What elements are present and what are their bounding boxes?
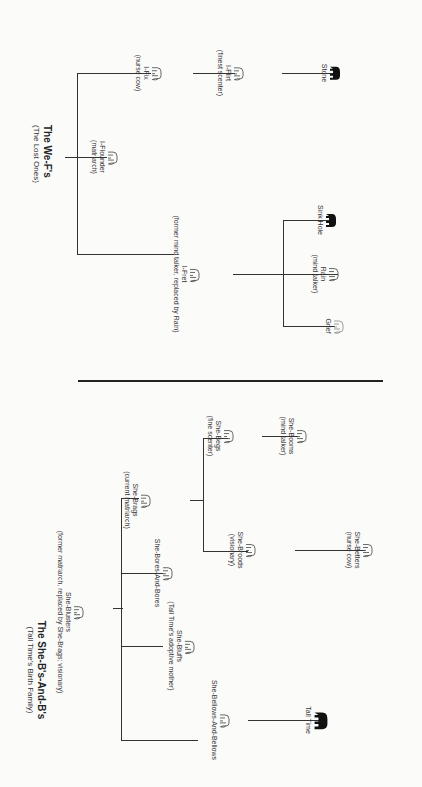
we-fs-trunk [77,73,78,254]
node-desc: (current matriarch) [123,471,131,529]
node-name: Grief [324,318,332,333]
node-name: Stone [320,64,328,82]
node-name: I-Fix [142,66,150,80]
elephant-outline-icon [106,149,120,165]
node-desc: (former matriarch, replaced by She-Brags… [56,531,64,694]
elephant-outline-icon [183,638,197,654]
node-desc: (mind talker) [311,255,319,294]
elephant-outline-icon [232,65,246,81]
node-desc: (nurse cow) [345,532,353,569]
node-name: She-Begs [214,421,222,452]
node-name: I-Flounder [98,141,106,173]
node-name: She-Brags [131,483,139,516]
elephant-outline-icon [72,604,86,620]
elephant-outline-icon [222,428,236,444]
elephant-outline-icon [188,266,202,282]
node-name: She-Bellows-And-Bellows [210,680,218,760]
node-name: I-Flirt [224,65,232,81]
node-name: Rain [319,267,327,281]
node-desc: (matriarch) [90,140,98,174]
she-bs-brags-stub [190,500,203,501]
we-fs-title: The We-F's [41,125,53,183]
we-fs-children-trunk [283,220,284,327]
node-name: I-Fret [180,266,188,283]
node-name: She-Blusters [64,592,72,632]
she-bs-branch-bellows [121,740,198,741]
node-desc: (mind talker) [279,417,287,456]
she-bs-title-block: The She-B's-And-B's (Tall Time's Birth F… [25,670,47,769]
elephant-solid-icon [324,212,338,228]
elephant-solid-icon [312,709,330,731]
node-name: She-Betters [353,532,361,569]
node-desc: (Tall Time's adoptive mother) [167,601,175,690]
node-name: She-Bluffs [175,630,183,662]
elephant-outline-icon [327,266,341,282]
node-desc: (visionary) [228,534,236,566]
node-name: She-Booms [287,418,295,455]
she-bs-brags-children-trunk [203,438,204,551]
elephant-outline-icon [218,712,232,728]
elephant-outline-icon [150,65,164,81]
elephant-outline-icon [332,318,346,334]
node-name: She-Broods [236,532,244,569]
elephant-outline-icon [295,428,309,444]
she-bs-trunk [121,498,122,740]
family-separator [78,380,383,382]
elephant-solid-icon [328,65,342,81]
node-desc: (nurse cow) [134,55,142,92]
node-desc: (finest scenter) [216,50,224,96]
elephant-outline-icon [139,492,153,508]
node-name: Sink Hole [316,205,324,235]
node-desc: (fine scenter) [206,416,214,457]
we-fs-subtitle: (The Lost Ones) [31,125,41,183]
elephant-outline-icon [361,542,375,558]
node-name: Tall Time [304,706,312,734]
elephant-outline-icon [161,565,175,581]
we-fs-branch-fret [77,254,174,255]
node-name: She-Bores-And-Bores [153,539,161,607]
she-bs-subtitle: (Tall Time's Birth Family) [25,621,35,720]
elephant-outline-icon [244,542,258,558]
we-fs-title-block: The We-F's (The Lost Ones) [31,125,53,183]
she-bs-title: The She-B's-And-B's [35,621,47,720]
she-bs-branch-bluffs [121,646,163,647]
node-desc: (former mind talker, replaced by Rain) [172,215,180,332]
